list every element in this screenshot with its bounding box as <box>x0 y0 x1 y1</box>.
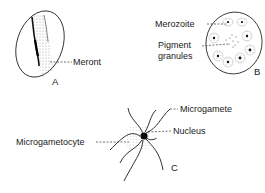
nucleus-leader-line <box>148 131 172 132</box>
panel-c-cell <box>96 108 178 181</box>
merozoite-cluster <box>209 18 255 67</box>
label-microgametocyte: Microgametocyte <box>16 137 85 147</box>
panel-letter-a: A <box>52 77 58 87</box>
label-granules: granules <box>158 51 193 61</box>
label-microgamete: Microgamete <box>180 104 232 114</box>
label-nucleus: Nucleus <box>173 126 206 136</box>
pigment-granules <box>225 34 238 47</box>
panel-a-cell <box>8 5 73 84</box>
label-pigment: Pigment <box>158 40 191 50</box>
nucleus <box>140 132 147 139</box>
label-merozoite: Merozoite <box>155 19 195 29</box>
panel-letter-c: C <box>171 163 178 173</box>
label-meront: Meront <box>73 57 101 67</box>
panel-letter-b: B <box>254 67 260 77</box>
diagram-canvas <box>0 0 265 193</box>
